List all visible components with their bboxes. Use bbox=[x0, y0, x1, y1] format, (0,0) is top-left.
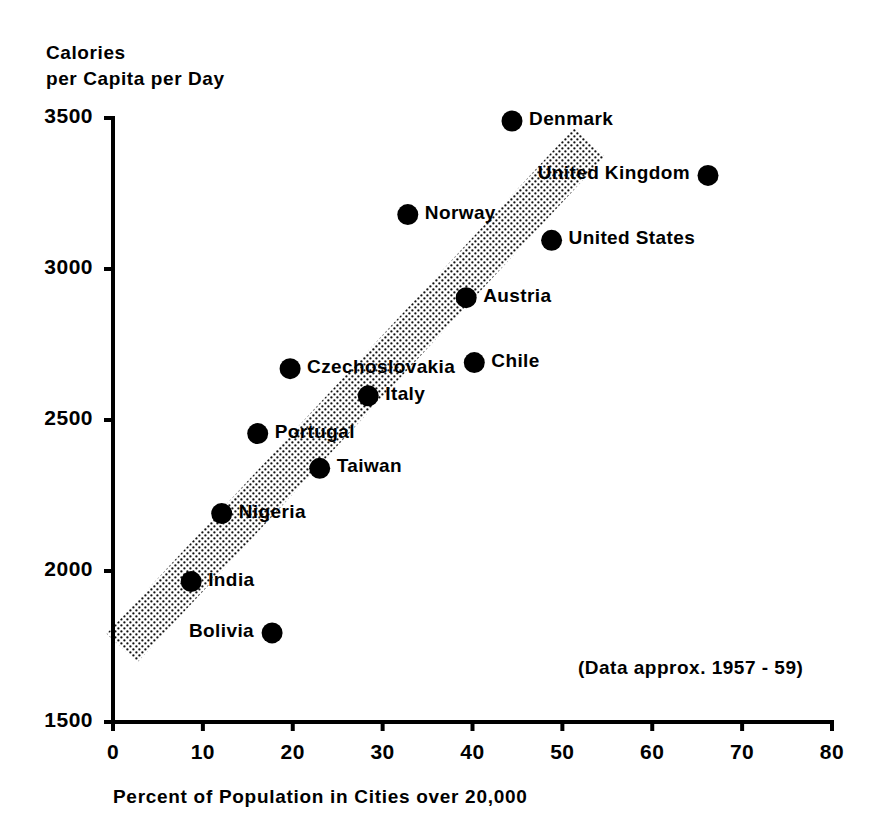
data-point-marker[interactable] bbox=[456, 287, 477, 308]
data-point-label: Nigeria bbox=[239, 501, 306, 523]
data-point-marker[interactable] bbox=[247, 423, 268, 444]
y-tick-label: 1500 bbox=[3, 708, 93, 732]
y-tick-label: 3500 bbox=[3, 104, 93, 128]
data-point-marker[interactable] bbox=[541, 230, 562, 251]
x-tick-label: 50 bbox=[532, 740, 592, 764]
data-point-marker[interactable] bbox=[698, 165, 719, 186]
data-point-label: India bbox=[208, 569, 254, 591]
data-point-label: United States bbox=[569, 227, 696, 249]
plot-area bbox=[0, 0, 888, 831]
data-point-label: Chile bbox=[491, 350, 539, 372]
data-point-label: United Kingdom bbox=[0, 162, 690, 184]
data-point-label: Norway bbox=[425, 202, 496, 224]
x-tick-label: 40 bbox=[443, 740, 503, 764]
data-point-marker[interactable] bbox=[358, 385, 379, 406]
data-point-label: Bolivia bbox=[0, 620, 254, 642]
data-point-label: Denmark bbox=[529, 108, 613, 130]
y-tick-label: 3000 bbox=[3, 255, 93, 279]
data-point-label: Austria bbox=[483, 285, 551, 307]
chart-figure: Caloriesper Capita per Day Percent of Po… bbox=[0, 0, 888, 831]
data-point-label: Czechoslovakia bbox=[307, 356, 455, 378]
data-point-marker[interactable] bbox=[181, 571, 202, 592]
x-tick-label: 0 bbox=[83, 740, 143, 764]
x-tick-label: 80 bbox=[802, 740, 862, 764]
data-point-marker[interactable] bbox=[211, 503, 232, 524]
x-tick-label: 20 bbox=[263, 740, 323, 764]
data-point-marker[interactable] bbox=[502, 111, 523, 132]
x-tick-label: 10 bbox=[173, 740, 233, 764]
data-point-marker[interactable] bbox=[397, 204, 418, 225]
y-tick-label: 2000 bbox=[3, 557, 93, 581]
data-point-label: Taiwan bbox=[337, 455, 402, 477]
y-tick-label: 2500 bbox=[3, 406, 93, 430]
data-point-marker[interactable] bbox=[262, 622, 283, 643]
data-point-label: Italy bbox=[385, 383, 425, 405]
data-point-label: Portugal bbox=[275, 421, 355, 443]
x-tick-label: 70 bbox=[712, 740, 772, 764]
data-point-marker[interactable] bbox=[280, 358, 301, 379]
data-point-marker[interactable] bbox=[309, 458, 330, 479]
x-tick-label: 30 bbox=[353, 740, 413, 764]
data-point-marker[interactable] bbox=[464, 352, 485, 373]
x-tick-label: 60 bbox=[622, 740, 682, 764]
